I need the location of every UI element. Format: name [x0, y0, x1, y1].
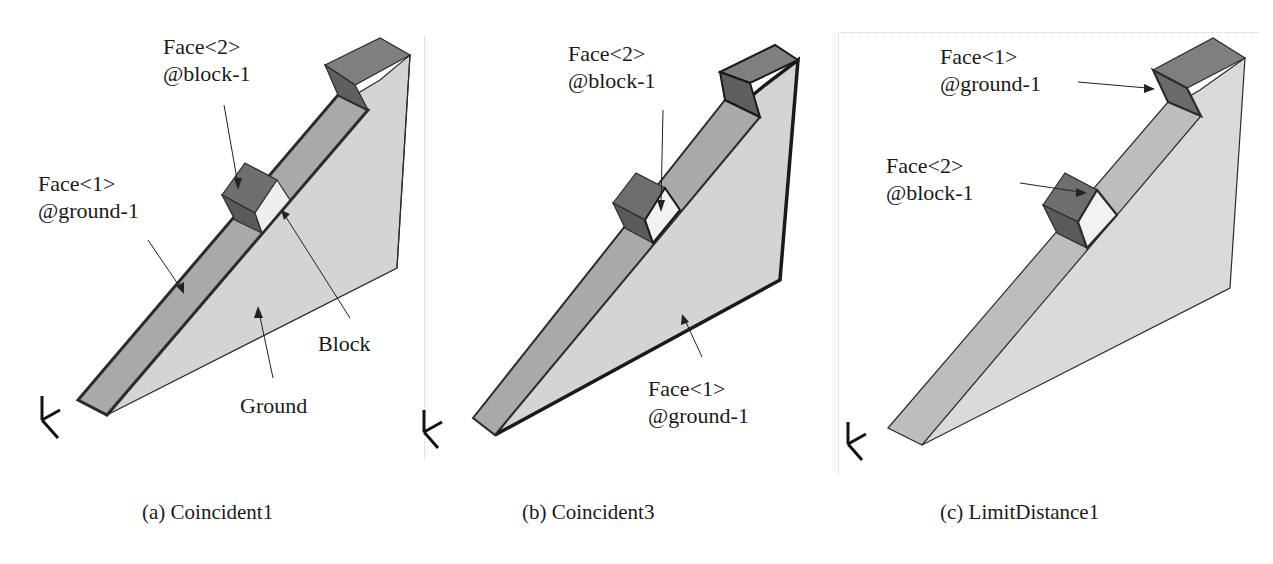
- label-face1: Face<1> @ground-1: [940, 43, 1041, 97]
- panel-c-limitdistance1: Face<1> @ground-1 Face<2> @block-1: [835, 0, 1273, 480]
- coordinate-triad-icon: [424, 410, 442, 448]
- panel-a-coincident1: Face<2> @block-1 Face<1> @ground-1 Block…: [0, 0, 420, 480]
- caption-c: (c) LimitDistance1: [940, 500, 1099, 525]
- label-face2: Face<2> @block-1: [163, 33, 250, 87]
- coordinate-triad-icon: [42, 396, 60, 438]
- label-ground: Ground: [240, 392, 307, 419]
- label-face1: Face<1> @ground-1: [38, 170, 139, 224]
- label-face1: Face<1> @ground-1: [648, 375, 749, 429]
- caption-b: (b) Coincident3: [522, 500, 654, 525]
- caption-a: (a) Coincident1: [142, 500, 273, 525]
- panel-b-coincident3: Face<2> @block-1 Face<1> @ground-1: [420, 0, 840, 480]
- coordinate-triad-icon: [848, 422, 866, 460]
- label-face2: Face<2> @block-1: [568, 40, 655, 94]
- label-face2: Face<2> @block-1: [886, 152, 973, 206]
- panel-c-model-view: [835, 0, 1273, 480]
- label-block: Block: [318, 330, 371, 357]
